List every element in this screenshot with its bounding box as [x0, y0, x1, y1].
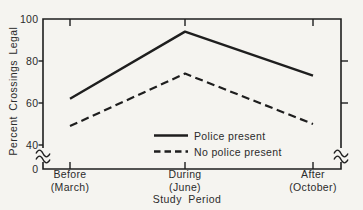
x-tick-label: After — [301, 168, 325, 180]
y-tick-label: 80 — [26, 55, 38, 67]
y-tick-label: 60 — [26, 97, 38, 109]
chart-plot-area: 1008060400Before(March)During(June)After… — [0, 0, 363, 210]
plot-frame-upper — [43, 19, 341, 148]
x-tick-sublabel: (October) — [289, 181, 337, 193]
x-tick-label: During — [168, 168, 201, 180]
x-tick-sublabel: (March) — [51, 181, 90, 193]
y-tick-label: 0 — [32, 163, 38, 175]
legend-label: No police present — [194, 146, 282, 158]
y-axis-title: Percent Crossings Legal — [7, 26, 21, 156]
series-line-police — [70, 32, 313, 99]
y-tick-label: 40 — [26, 139, 38, 151]
x-axis-title: Study Period — [127, 193, 247, 205]
x-tick-label: Before — [53, 168, 86, 180]
y-tick-label: 100 — [20, 13, 39, 25]
series-line-no-police — [70, 74, 313, 127]
line-chart-figure: 1008060400Before(March)During(June)After… — [0, 0, 363, 210]
legend-label: Police present — [194, 130, 265, 142]
x-tick-sublabel: (June) — [169, 181, 201, 193]
